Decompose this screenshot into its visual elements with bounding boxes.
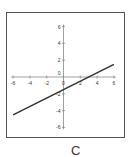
x-tick-label: -2 <box>44 80 49 86</box>
x-tick-label: 4 <box>96 80 99 86</box>
y-tick-label: 2 <box>58 57 61 63</box>
axes <box>11 25 116 130</box>
coordinate-plot: -6-4-20246-6-4-22460 <box>0 0 134 157</box>
y-tick-label: -4 <box>56 108 61 114</box>
figure-caption: C <box>71 143 80 157</box>
x-tick-label: 6 <box>113 80 116 86</box>
x-tick-label: -6 <box>11 80 16 86</box>
y-tick-label: -6 <box>56 124 61 130</box>
x-tick-label: -4 <box>28 80 33 86</box>
y-tick-label: 4 <box>58 40 61 46</box>
y-tick-label: 6 <box>58 24 61 30</box>
origin-label: 0 <box>58 70 61 76</box>
plot-frame <box>7 13 125 138</box>
x-tick-label: 0 <box>62 80 65 86</box>
